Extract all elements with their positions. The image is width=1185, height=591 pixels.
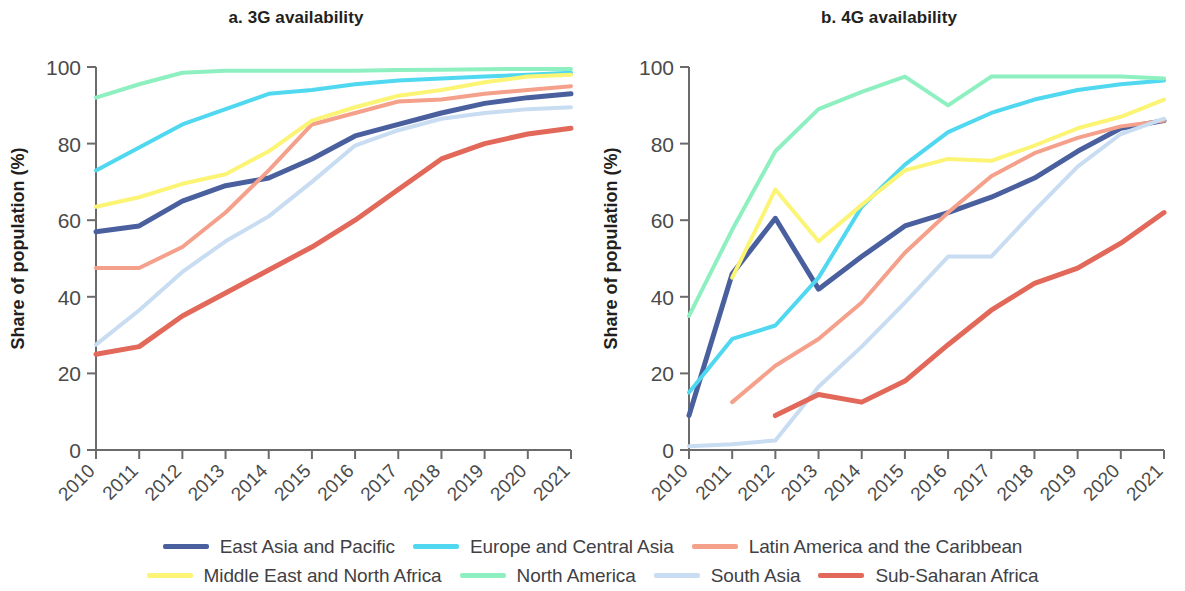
legend-item[interactable]: South Asia	[645, 565, 810, 587]
x-tick-label: 2017	[356, 460, 401, 505]
x-tick-label: 2015	[863, 460, 908, 505]
legend-item-label: Middle East and North Africa	[204, 565, 442, 587]
x-tick-label: 2015	[270, 460, 315, 505]
y-tick-label: 20	[651, 362, 674, 385]
legend-item-label: Sub-Saharan Africa	[875, 565, 1038, 587]
panel-3g-availability: a. 3G availability Share of population (…	[0, 0, 592, 530]
series-line	[96, 107, 571, 344]
series-line	[775, 213, 1164, 416]
panel-a-plot: 0204060801002010201120122013201420152016…	[0, 0, 592, 530]
series-line	[96, 73, 571, 171]
x-tick-label: 2017	[949, 460, 994, 505]
x-tick-label: 2011	[98, 460, 142, 504]
legend-item[interactable]: North America	[451, 565, 645, 587]
x-tick-label: 2020	[486, 460, 531, 505]
panel-4g-availability: b. 4G availability Share of population (…	[593, 0, 1185, 530]
legend-color-swatch	[163, 544, 209, 549]
x-tick-label: 2010	[54, 460, 99, 505]
x-tick-label: 2019	[443, 460, 488, 505]
chart-legend: East Asia and PacificEurope and Central …	[0, 532, 1185, 591]
legend-item-label: North America	[517, 565, 636, 587]
legend-item[interactable]: Europe and Central Asia	[404, 536, 683, 558]
legend-color-swatch	[692, 544, 738, 549]
x-tick-label: 2012	[733, 460, 778, 505]
series-line	[732, 121, 1164, 403]
y-tick-label: 0	[662, 439, 674, 462]
y-tick-label: 100	[46, 56, 81, 79]
x-tick-label: 2019	[1036, 460, 1081, 505]
legend-item-label: South Asia	[711, 565, 801, 587]
legend-color-swatch	[818, 573, 864, 578]
x-tick-label: 2011	[691, 460, 735, 504]
x-tick-label: 2013	[184, 460, 229, 505]
x-tick-label: 2021	[1122, 460, 1167, 505]
x-tick-label: 2016	[906, 460, 951, 505]
legend-item-label: Latin America and the Caribbean	[749, 536, 1023, 558]
y-tick-label: 80	[58, 133, 81, 156]
x-tick-label: 2010	[647, 460, 692, 505]
x-tick-label: 2012	[140, 460, 185, 505]
legend-color-swatch	[654, 573, 700, 578]
legend-item[interactable]: Middle East and North Africa	[138, 565, 451, 587]
y-tick-label: 0	[69, 439, 81, 462]
y-tick-label: 100	[639, 56, 674, 79]
y-tick-label: 80	[651, 133, 674, 156]
y-tick-label: 20	[58, 362, 81, 385]
figure-root: a. 3G availability Share of population (…	[0, 0, 1185, 591]
x-tick-label: 2013	[777, 460, 822, 505]
y-tick-label: 60	[58, 209, 81, 232]
x-tick-label: 2016	[313, 460, 358, 505]
legend-item[interactable]: Sub-Saharan Africa	[809, 565, 1047, 587]
panel-b-plot: 0204060801002010201120122013201420152016…	[593, 0, 1185, 530]
legend-item-label: East Asia and Pacific	[220, 536, 395, 558]
legend-row-1: East Asia and PacificEurope and Central …	[0, 532, 1185, 561]
legend-color-swatch	[147, 573, 193, 578]
legend-color-swatch	[413, 544, 459, 549]
y-tick-label: 40	[58, 286, 81, 309]
chart-panels: a. 3G availability Share of population (…	[0, 0, 1185, 530]
x-tick-label: 2014	[227, 460, 272, 505]
legend-item[interactable]: East Asia and Pacific	[154, 536, 404, 558]
series-line	[689, 119, 1164, 446]
x-tick-label: 2020	[1079, 460, 1124, 505]
x-tick-label: 2014	[820, 460, 865, 505]
x-tick-label: 2018	[993, 460, 1038, 505]
x-tick-label: 2018	[400, 460, 445, 505]
legend-color-swatch	[460, 573, 506, 578]
legend-item-label: Europe and Central Asia	[470, 536, 674, 558]
y-tick-label: 60	[651, 209, 674, 232]
legend-item[interactable]: Latin America and the Caribbean	[683, 536, 1032, 558]
x-tick-label: 2021	[529, 460, 574, 505]
y-tick-label: 40	[651, 286, 674, 309]
legend-row-2: Middle East and North AfricaNorth Americ…	[0, 561, 1185, 590]
